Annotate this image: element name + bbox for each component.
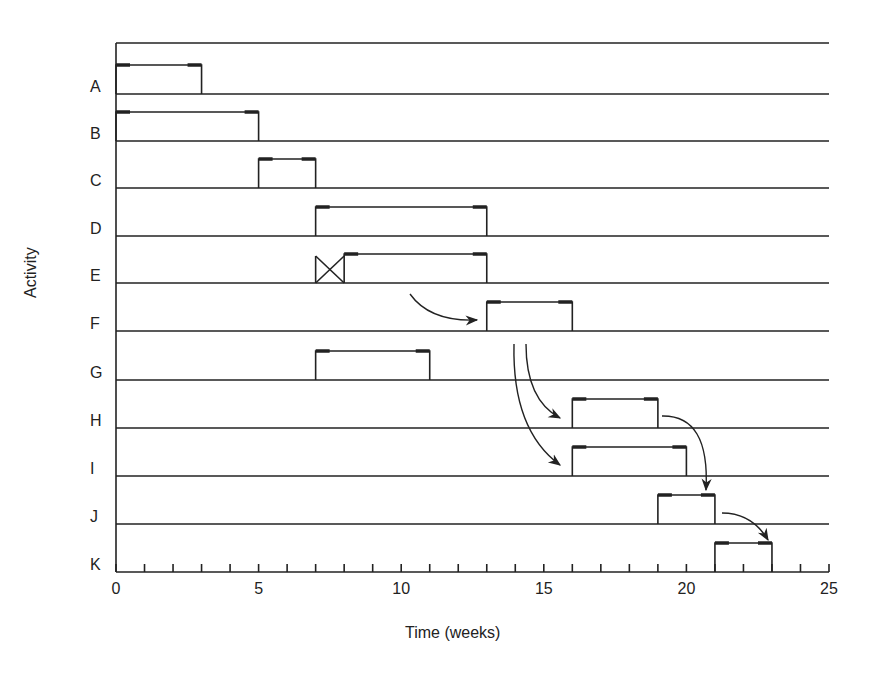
task-bar xyxy=(658,495,715,524)
task-bar xyxy=(572,447,686,476)
x-tick-label: 5 xyxy=(254,580,263,597)
dependency-arrow xyxy=(514,344,560,465)
activity-label: I xyxy=(90,460,94,478)
activity-label: C xyxy=(90,172,102,190)
x-axis-title: Time (weeks) xyxy=(405,624,500,642)
dependency-arrow xyxy=(662,416,706,490)
activity-label: J xyxy=(90,508,98,526)
row-lines xyxy=(116,43,829,572)
activity-label: E xyxy=(90,267,101,285)
x-tick-label: 20 xyxy=(678,580,696,597)
y-axis-title: Activity xyxy=(22,218,40,298)
activity-label: B xyxy=(90,125,101,143)
delay-x-marker xyxy=(316,256,345,283)
activity-label: K xyxy=(90,556,101,574)
dependency-arrow xyxy=(722,513,768,540)
x-axis: 0510152025 xyxy=(112,564,838,597)
task-bar xyxy=(316,351,430,380)
dependency-arrow xyxy=(410,294,477,320)
task-bar xyxy=(572,399,658,428)
task-bar xyxy=(259,159,316,188)
task-bar xyxy=(487,302,573,331)
activity-label: H xyxy=(90,412,102,430)
x-tick-label: 15 xyxy=(535,580,553,597)
task-bar xyxy=(116,65,202,94)
task-bar xyxy=(116,112,259,141)
x-tick-label: 0 xyxy=(112,580,121,597)
task-bar xyxy=(316,254,487,283)
x-tick-label: 25 xyxy=(820,580,838,597)
task-bar xyxy=(316,207,487,236)
gantt-chart: 0510152025 xyxy=(0,0,876,673)
activity-label: G xyxy=(90,364,102,382)
x-tick-label: 10 xyxy=(392,580,410,597)
dependency-arrow xyxy=(526,344,560,418)
activity-label: D xyxy=(90,220,102,238)
activity-label: F xyxy=(90,315,100,333)
activity-label: A xyxy=(90,78,101,96)
